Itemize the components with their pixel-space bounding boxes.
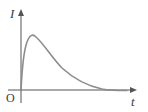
x-axis-arrow-icon [130, 87, 137, 93]
x-axis-label: t [131, 95, 135, 108]
y-axis-label: I [10, 7, 14, 20]
y-axis-arrow-icon [18, 9, 24, 16]
origin-label: O [6, 92, 15, 104]
current-curve [21, 35, 127, 90]
chart-canvas [0, 0, 148, 112]
